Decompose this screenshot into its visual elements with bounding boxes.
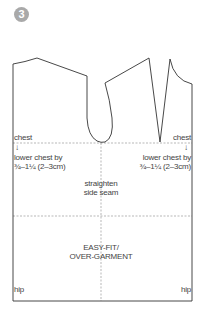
lower-chest-note-right-line2: ¾–1¼ (2–3cm) — [140, 162, 191, 171]
fit-note-line1: EASY-FIT/ — [51, 243, 151, 252]
straighten-note-line1: straighten — [61, 179, 141, 188]
straighten-note-line2: side seam — [61, 188, 141, 197]
lower-chest-note-left-line2: ¾–1¼ (2–3cm) — [14, 162, 65, 171]
hip-label-left: hip — [14, 285, 24, 294]
chest-label-right: chest — [173, 133, 191, 142]
arrow-down-icon: ↓ — [15, 144, 19, 152]
lower-chest-note-left-line1: lower chest by — [14, 153, 62, 162]
arrow-down-icon: ↓ — [184, 144, 188, 152]
fit-note-line2: OVER-GARMENT — [51, 252, 151, 261]
pattern-diagram: 3 chest chest ↓ ↓ lower chest by ¾–1¼ (2… — [0, 0, 206, 309]
hip-label-right: hip — [181, 285, 191, 294]
chest-label-left: chest — [14, 133, 32, 142]
lower-chest-note-right-line1: lower chest by — [143, 153, 191, 162]
